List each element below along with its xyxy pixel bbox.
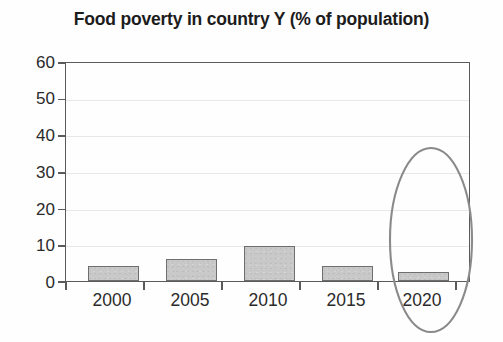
x-tick-mark-4 [377, 282, 379, 290]
gridline-40 [66, 136, 469, 137]
x-tick-mark-end [455, 282, 457, 290]
y-tick-label-20: 20 [0, 200, 55, 220]
x-tick-label-2020: 2020 [383, 290, 461, 311]
x-tick-label-2010: 2010 [229, 290, 307, 311]
bar-2005 [166, 259, 217, 281]
x-axis: 2000 2005 2010 2015 2020 [65, 290, 470, 320]
y-tick-label-30: 30 [0, 163, 55, 183]
chart-figure: Food poverty in country Y (% of populati… [0, 0, 503, 342]
x-tick-label-2015: 2015 [307, 290, 385, 311]
x-tick-label-2005: 2005 [151, 290, 229, 311]
bar-2010 [244, 246, 295, 281]
x-tick-mark-3 [299, 282, 301, 290]
y-tick-label-60: 60 [0, 53, 55, 73]
bar-2000 [88, 266, 139, 281]
chart-title: Food poverty in country Y (% of populati… [0, 9, 503, 30]
y-tick-label-10: 10 [0, 236, 55, 256]
y-tick-label-50: 50 [0, 89, 55, 109]
gridline-50 [66, 100, 469, 101]
x-tick-mark-2 [221, 282, 223, 290]
x-tick-mark-1 [143, 282, 145, 290]
y-axis: 60 50 40 30 20 10 0 [0, 0, 57, 342]
bar-2015 [322, 266, 373, 281]
x-tick-mark-start [65, 282, 67, 290]
x-tick-label-2000: 2000 [73, 290, 151, 311]
y-tick-label-40: 40 [0, 126, 55, 146]
gridline-30 [66, 173, 469, 174]
plot-area [65, 62, 470, 282]
y-tick-label-0: 0 [0, 273, 55, 293]
bar-2020 [398, 272, 449, 281]
gridline-20 [66, 210, 469, 211]
